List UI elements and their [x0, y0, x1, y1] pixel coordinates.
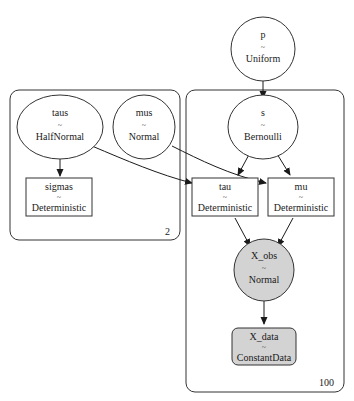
svg-text:tau: tau [219, 181, 231, 192]
node-x-obs[interactable]: X_obs ~ Normal [234, 239, 294, 301]
svg-text:~: ~ [262, 264, 267, 273]
svg-text:Deterministic: Deterministic [274, 202, 329, 213]
node-tau[interactable]: tau ~ Deterministic [192, 178, 258, 216]
svg-text:~: ~ [262, 343, 267, 352]
node-x-data[interactable]: X_data ~ ConstantData [232, 328, 296, 365]
svg-text:~: ~ [261, 43, 266, 52]
svg-text:p: p [261, 29, 266, 40]
node-mus[interactable]: mus ~ Normal [113, 95, 175, 159]
svg-text:HalfNormal: HalfNormal [36, 131, 85, 142]
svg-text:X_data: X_data [250, 331, 279, 342]
svg-text:~: ~ [299, 193, 304, 202]
svg-text:mus: mus [136, 107, 153, 118]
svg-text:Uniform: Uniform [246, 53, 281, 64]
svg-text:taus: taus [52, 107, 68, 118]
svg-text:sigmas: sigmas [45, 181, 73, 192]
plate-100-label: 100 [319, 377, 334, 388]
node-mu[interactable]: mu ~ Deterministic [268, 178, 334, 216]
svg-text:s: s [261, 107, 265, 118]
svg-text:Normal: Normal [129, 131, 160, 142]
svg-text:~: ~ [142, 121, 147, 130]
node-taus[interactable]: taus ~ HalfNormal [17, 95, 103, 159]
svg-text:Deterministic: Deterministic [32, 202, 87, 213]
svg-text:mu: mu [295, 181, 308, 192]
node-p[interactable]: p ~ Uniform [231, 17, 295, 81]
svg-text:Deterministic: Deterministic [198, 202, 253, 213]
edge-tau-xobs [235, 218, 250, 246]
edge-mu-xobs [278, 218, 293, 246]
svg-text:ConstantData: ConstantData [237, 352, 292, 363]
svg-text:~: ~ [57, 193, 62, 202]
svg-text:~: ~ [58, 121, 63, 130]
svg-text:Normal: Normal [249, 274, 280, 285]
svg-text:X_obs: X_obs [251, 250, 277, 261]
model-graph: 2 100 p ~ Uniform taus ~ HalfNormal mus … [0, 0, 354, 401]
node-sigmas[interactable]: sigmas ~ Deterministic [26, 178, 92, 216]
node-s[interactable]: s ~ Bernoulli [228, 95, 298, 159]
plate-2-label: 2 [165, 226, 170, 237]
svg-text:~: ~ [223, 193, 228, 202]
svg-text:Bernoulli: Bernoulli [244, 131, 282, 142]
svg-text:~: ~ [261, 121, 266, 130]
